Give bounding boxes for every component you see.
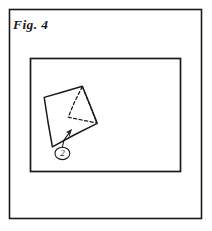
figure-label: Fig. 4 (13, 18, 48, 32)
inner-frame (31, 59, 181, 172)
callout-number-label: 2 (55, 147, 70, 160)
fold-lines-triangle (68, 87, 97, 123)
outer-frame (10, 10, 202, 219)
fold-line-right (82, 87, 97, 123)
figure-drawing (0, 0, 212, 231)
panel-quadrilateral (44, 86, 97, 147)
figure-page: Fig. 4 2 (0, 0, 212, 231)
